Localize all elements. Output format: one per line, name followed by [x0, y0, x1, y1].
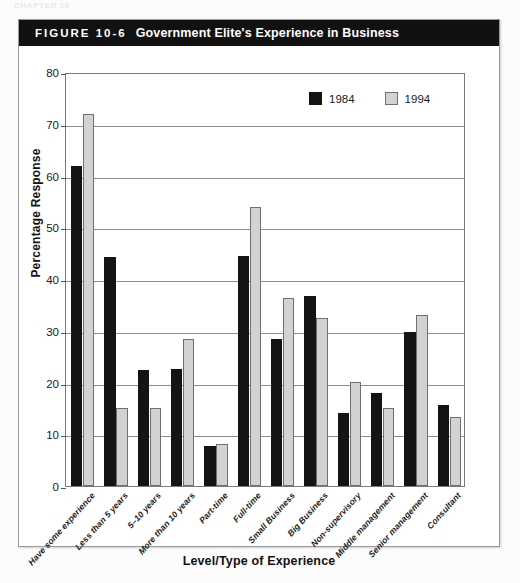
page-background: CHAPTER 10 FIGURE 10-6 Government Elite'…: [0, 0, 520, 583]
figure-number: FIGURE 10-6: [35, 27, 127, 39]
legend-label-1994: 1994: [405, 93, 431, 105]
y-axis-tick-label: 80: [46, 67, 59, 79]
x-axis-tick-label-text: Full-time: [231, 490, 263, 524]
bar-group: [233, 74, 266, 486]
y-axis-tick-label: 70: [46, 119, 59, 131]
bar-group: [333, 74, 366, 486]
legend-swatch-1994: [385, 92, 398, 105]
bar-group: [166, 74, 199, 486]
y-axis-tick-label: 20: [46, 378, 59, 390]
bar-group: [99, 74, 132, 486]
bar-group: [199, 74, 232, 486]
bar-1984-2: [104, 257, 116, 486]
chart-legend: 1984 1994: [309, 92, 430, 105]
y-axis-tick-label: 10: [46, 429, 59, 441]
legend-item-1984: 1984: [309, 92, 355, 105]
bar-1994-6: [250, 207, 262, 486]
bar-group: [266, 74, 299, 486]
bar-group: [366, 74, 399, 486]
bar-group: [433, 74, 466, 486]
bar-1984-8: [304, 296, 316, 486]
figure-caption-bar: FIGURE 10-6 Government Elite's Experienc…: [19, 20, 499, 46]
legend-label-1984: 1984: [329, 93, 355, 105]
bar-1994-9: [350, 382, 362, 486]
chart-area: Percentage Response 01020304050607080 19…: [19, 46, 499, 546]
figure-title: Government Elite's Experience in Busines…: [136, 26, 399, 40]
y-axis-tick-label: 50: [46, 222, 59, 234]
figure-container: FIGURE 10-6 Government Elite's Experienc…: [18, 19, 500, 547]
y-axis-tick-label: 60: [46, 171, 59, 183]
legend-swatch-1984: [309, 92, 322, 105]
plot-area: [65, 73, 465, 487]
bar-group: [299, 74, 332, 486]
x-axis-title: Level/Type of Experience: [19, 554, 499, 568]
bar-group: [66, 74, 99, 486]
bar-1984-6: [238, 256, 250, 486]
legend-item-1994: 1994: [385, 92, 431, 105]
y-axis-tick-label: 0: [53, 481, 59, 493]
x-axis-tick-labels: Have some experienceLess than 5 years5–1…: [65, 489, 465, 551]
bar-1994-7: [283, 298, 295, 486]
y-axis-tick-label: 30: [46, 326, 59, 338]
x-axis-tick-label-text: Consultant: [425, 490, 463, 531]
bar-group: [399, 74, 432, 486]
y-axis-tick-labels: 01020304050607080: [27, 73, 59, 487]
x-axis-tick-label-text: Senior management: [366, 490, 430, 559]
x-axis-tick-label-text: Part-time: [197, 490, 230, 525]
bar-1994-1: [83, 114, 95, 486]
bar-1984-1: [71, 166, 83, 486]
y-axis-tick-label: 40: [46, 274, 59, 286]
x-axis-tick-label-text: Middle management: [333, 490, 397, 559]
running-head: CHAPTER 10: [14, 1, 244, 12]
